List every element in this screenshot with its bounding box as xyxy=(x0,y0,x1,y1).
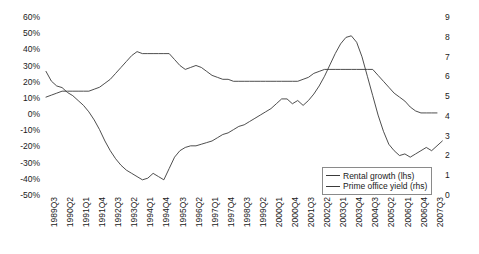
x-axis-tick: 1998Q3 xyxy=(243,197,252,227)
x-axis-tick: 2000Q4 xyxy=(291,197,300,227)
category-axis: 1989Q31990Q21991Q11991Q41992Q31993Q21994… xyxy=(46,197,437,254)
left-axis-tick: -10% xyxy=(20,126,40,135)
x-axis-tick: 1989Q3 xyxy=(50,197,59,227)
x-axis-tick: 2003Q4 xyxy=(355,197,364,227)
x-axis-tick: 2005Q2 xyxy=(387,197,396,227)
legend-label-rental-growth: Rental growth (lhs) xyxy=(343,171,414,181)
x-axis-tick: 1997Q1 xyxy=(211,197,220,227)
x-axis-tick: 2006Q1 xyxy=(404,197,413,227)
x-axis-tick: 1991Q1 xyxy=(82,197,91,227)
right-axis-tick: 7 xyxy=(445,53,450,62)
x-axis-tick: 1999Q2 xyxy=(259,197,268,227)
left-axis-tick: 50% xyxy=(23,29,40,38)
x-axis-tick: 1990Q2 xyxy=(66,197,75,227)
left-axis-tick: 0% xyxy=(28,110,40,119)
x-axis-tick: 1991Q4 xyxy=(98,197,107,227)
right-axis-tick: 1 xyxy=(445,171,450,180)
left-axis-tick: 10% xyxy=(23,94,40,103)
right-axis-tick: 9 xyxy=(445,13,450,22)
series-prime-office-yield-rhs xyxy=(46,52,437,113)
legend-item-rental-growth: Rental growth (lhs) xyxy=(326,171,427,181)
left-axis-tick: -30% xyxy=(20,159,40,168)
x-axis-tick: 1992Q3 xyxy=(114,197,123,227)
left-value-axis: 60%50%40%30%20%10%0%-10%-20%-30%-40%-50% xyxy=(0,0,44,214)
left-axis-tick: -20% xyxy=(20,142,40,151)
x-axis-tick: 2002Q2 xyxy=(323,197,332,227)
right-axis-tick: 2 xyxy=(445,151,450,160)
x-axis-tick: 1994Q4 xyxy=(162,197,171,227)
x-axis-tick: 2001Q3 xyxy=(307,197,316,227)
dual-axis-line-chart: 60%50%40%30%20%10%0%-10%-20%-30%-40%-50%… xyxy=(0,0,479,254)
left-axis-tick: 60% xyxy=(23,13,40,22)
right-axis-tick: 8 xyxy=(445,33,450,42)
legend-item-prime-office-yield: Prime office yield (rhs) xyxy=(326,181,427,191)
right-axis-tick: 3 xyxy=(445,132,450,141)
x-axis-tick: 2006Q4 xyxy=(420,197,429,227)
x-axis-tick: 1996Q2 xyxy=(195,197,204,227)
x-axis-tick: 1994Q1 xyxy=(146,197,155,227)
right-axis-tick: 4 xyxy=(445,112,450,121)
left-axis-tick: 20% xyxy=(23,78,40,87)
left-axis-tick: 40% xyxy=(23,45,40,54)
right-axis-tick: 6 xyxy=(445,72,450,81)
left-axis-tick: -50% xyxy=(20,191,40,200)
legend-label-prime-office-yield: Prime office yield (rhs) xyxy=(343,181,427,191)
left-axis-tick: -40% xyxy=(20,175,40,184)
x-axis-tick: 1993Q2 xyxy=(130,197,139,227)
x-axis-tick: 1997Q4 xyxy=(227,197,236,227)
right-axis-tick: 5 xyxy=(445,92,450,101)
x-axis-tick: 2007Q3 xyxy=(436,197,445,227)
right-value-axis: 9876543210 xyxy=(441,0,477,214)
chart-legend: Rental growth (lhs) Prime office yield (… xyxy=(322,167,432,195)
right-axis-tick: 0 xyxy=(445,191,450,200)
x-axis-tick: 2003Q1 xyxy=(339,197,348,227)
legend-swatch-rental-growth xyxy=(326,175,340,176)
series-rental-growth-lhs xyxy=(46,36,442,180)
left-axis-tick: 30% xyxy=(23,62,40,71)
x-axis-tick: 1995Q3 xyxy=(179,197,188,227)
legend-swatch-prime-office-yield xyxy=(326,186,340,187)
x-axis-tick: 2000Q1 xyxy=(275,197,284,227)
x-axis-tick: 2004Q3 xyxy=(371,197,380,227)
